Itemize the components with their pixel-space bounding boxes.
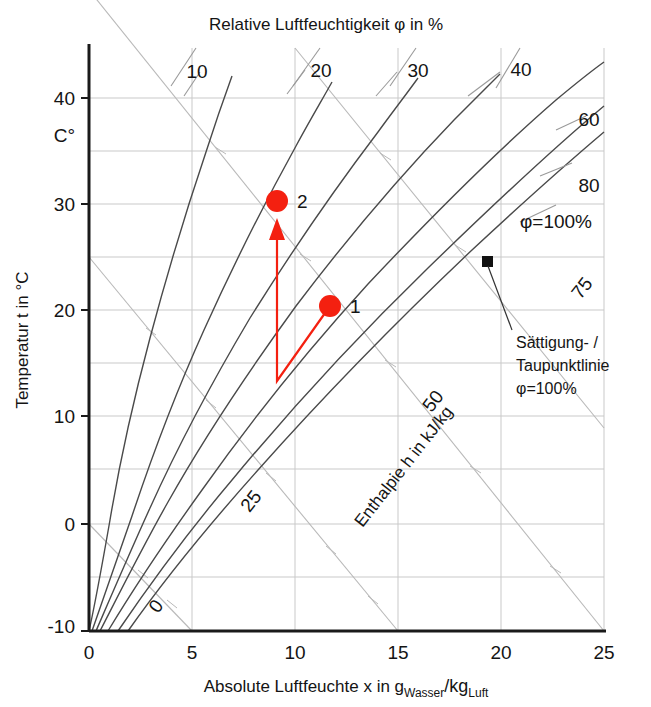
x-tick-label-10: 10 xyxy=(284,642,305,663)
rh-label-40: 40 xyxy=(510,59,531,80)
y-tick-label-40: 40 xyxy=(54,88,75,109)
rh-label-10: 10 xyxy=(186,61,207,82)
rh-label-20: 20 xyxy=(310,60,331,81)
state-point-1-marker xyxy=(319,295,341,317)
x-axis-title-sub-wasser: Wasser xyxy=(404,686,444,700)
rh-label-100: φ=100% xyxy=(520,211,592,232)
x-axis-title-pre: Absolute Luftfeuchte x in g xyxy=(204,677,404,696)
saturation-note-line3: φ=100% xyxy=(516,380,577,397)
x-axis-title-mid: /kg xyxy=(444,676,468,696)
rh-label-60: 60 xyxy=(578,109,599,130)
chart-title: Relative Luftfeuchtigkeit φ in % xyxy=(209,15,443,34)
rh-label-80: 80 xyxy=(578,175,599,196)
state-point-2-label: 2 xyxy=(297,191,308,212)
saturation-note-line2: Taupunktlinie xyxy=(516,357,610,374)
y-tick-label-20: 20 xyxy=(54,300,75,321)
state-point-2-marker xyxy=(266,190,288,212)
y-axis-unit: C° xyxy=(54,125,75,146)
x-tick-label-5: 5 xyxy=(187,642,198,663)
dewpoint-marker xyxy=(482,256,493,267)
y-tick-label-10: 10 xyxy=(54,406,75,427)
y-tick-label-30: 30 xyxy=(54,194,75,215)
y-axis-title: Temperatur t in °C xyxy=(13,271,32,408)
x-axis-title-sub-luft: Luft xyxy=(468,686,489,700)
rh-label-30: 30 xyxy=(407,60,428,81)
state-point-1-label: 1 xyxy=(350,296,361,317)
x-tick-label-20: 20 xyxy=(490,642,511,663)
saturation-note-line1: Sättigung- / xyxy=(516,334,598,351)
x-tick-label-0: 0 xyxy=(84,642,95,663)
chart-background xyxy=(0,0,651,707)
y-tick-label-m10: -10 xyxy=(48,616,75,637)
x-tick-label-25: 25 xyxy=(593,642,614,663)
y-tick-label-0: 0 xyxy=(64,514,75,535)
x-tick-label-15: 15 xyxy=(387,642,408,663)
psychrometric-chart: Relative Luftfeuchtigkeit φ in % xyxy=(0,0,651,707)
